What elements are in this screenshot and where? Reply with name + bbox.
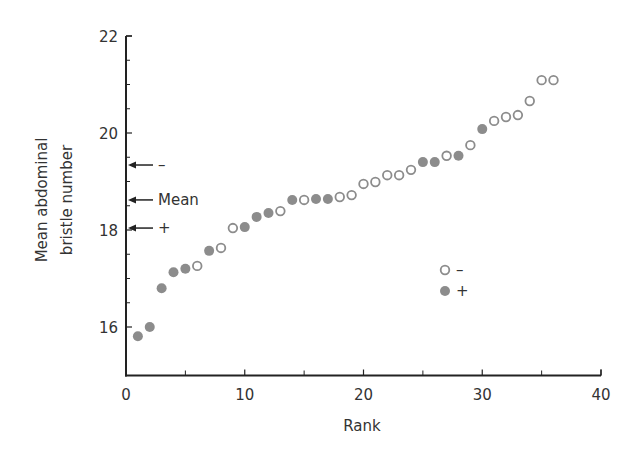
data-point-filled xyxy=(287,195,297,205)
y-axis-title: Mean abdominal bristle number xyxy=(33,138,76,263)
legend-item-minus: – xyxy=(441,261,464,279)
data-point-filled xyxy=(477,124,487,134)
data-point-open xyxy=(335,193,344,202)
data-point-open xyxy=(395,171,404,180)
data-point-filled xyxy=(264,208,274,218)
x-tick-label: 20 xyxy=(354,386,373,404)
data-point-filled xyxy=(180,264,190,274)
mean-annotations: –Mean+ xyxy=(128,156,199,237)
arrow-left-icon xyxy=(128,162,136,169)
data-point-filled xyxy=(311,194,321,204)
data-point-filled xyxy=(145,322,155,332)
annotation-arrow-minus: – xyxy=(128,156,166,174)
data-point-filled xyxy=(252,212,262,222)
annotation-arrow-plus: + xyxy=(128,219,171,237)
data-point-open xyxy=(537,76,546,85)
x-tick-label: 0 xyxy=(121,386,131,404)
data-point-open xyxy=(347,191,356,200)
y-tick-label: 22 xyxy=(99,28,118,46)
x-tick-label: 10 xyxy=(235,386,254,404)
legend-filled-circle-icon xyxy=(440,286,450,296)
x-tick-label: 40 xyxy=(591,386,610,404)
data-point-open xyxy=(300,196,309,205)
data-point-open xyxy=(549,76,558,85)
y-axis-title-line2: bristle number xyxy=(58,144,76,255)
legend: –+ xyxy=(440,261,469,300)
annotation-arrow-mean: Mean xyxy=(128,191,199,209)
annotation-label: Mean xyxy=(158,191,199,209)
y-axis-title-line1: Mean abdominal xyxy=(33,138,51,263)
data-point-open xyxy=(359,180,368,189)
annotation-label: – xyxy=(158,156,166,174)
data-point-open xyxy=(502,113,511,122)
x-tick-label: 30 xyxy=(473,386,492,404)
data-point-filled xyxy=(169,267,179,277)
data-point-filled xyxy=(157,283,167,293)
legend-item-plus: + xyxy=(440,282,469,300)
data-point-filled xyxy=(430,157,440,167)
data-point-open xyxy=(466,141,475,150)
legend-label: + xyxy=(456,282,469,300)
series-minus xyxy=(193,76,558,270)
y-tick-label: 16 xyxy=(99,319,118,337)
data-point-open xyxy=(371,178,380,187)
data-point-open xyxy=(525,97,534,106)
data-point-filled xyxy=(418,157,428,167)
legend-label: – xyxy=(456,261,464,279)
data-point-open xyxy=(514,111,523,120)
data-point-open xyxy=(276,207,285,216)
y-tick-label: 18 xyxy=(99,222,118,240)
y-tick-label: 20 xyxy=(99,125,118,143)
x-axis-title: Rank xyxy=(343,417,381,435)
data-point-filled xyxy=(240,222,250,232)
data-point-open xyxy=(229,224,238,233)
data-point-filled xyxy=(323,194,333,204)
y-axis-ticks: 16182022 xyxy=(99,28,132,337)
legend-open-circle-icon xyxy=(441,266,450,275)
data-point-filled xyxy=(133,331,143,341)
data-point-open xyxy=(442,151,451,160)
scatter-chart: Mean abdominal bristle number 16182022 0… xyxy=(0,0,634,451)
data-point-open xyxy=(407,166,416,175)
series-plus xyxy=(133,124,487,341)
data-point-filled xyxy=(204,246,214,256)
data-point-open xyxy=(193,262,202,271)
data-point-filled xyxy=(454,151,464,161)
data-point-open xyxy=(490,117,499,126)
arrow-left-icon xyxy=(128,196,136,203)
data-point-open xyxy=(383,171,392,180)
annotation-label: + xyxy=(158,219,171,237)
data-point-open xyxy=(217,244,226,253)
